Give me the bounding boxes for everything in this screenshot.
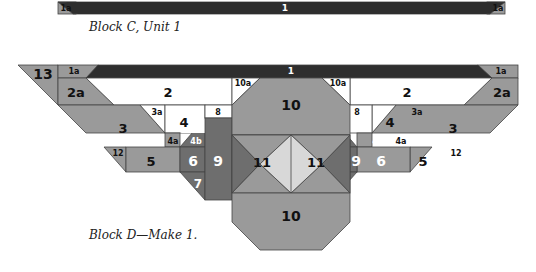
label-4-right: 4 [385, 115, 394, 130]
label-6-left: 6 [188, 153, 198, 169]
label-c-1a-left: 1a [61, 4, 72, 13]
label-12-left: 12 [112, 149, 123, 158]
label-12-right: 12 [450, 149, 461, 158]
label-2-left: 2 [163, 85, 172, 100]
label-10a-left: 10a [235, 79, 252, 88]
label-5-right: 5 [418, 154, 427, 169]
label-10a-right: 10a [330, 79, 347, 88]
label-2-right: 2 [402, 85, 411, 100]
quilt-diagram: 1a 1 1a 13 1a 1 1a 2a 2 10a 10 10a 2 2a … [0, 0, 536, 272]
label-3a-left: 3a [152, 108, 163, 117]
label-4a-left: 4a [168, 137, 179, 146]
label-1a-left: 1a [69, 67, 80, 76]
label-2a-right: 2a [493, 85, 511, 100]
label-1: 1 [288, 66, 294, 76]
label-3a-right: 3a [412, 108, 423, 117]
label-11-left: 11 [253, 155, 271, 170]
label-13: 13 [33, 66, 52, 82]
label-9-right: 9 [351, 153, 361, 169]
label-2a-left: 2a [67, 85, 85, 100]
label-c-1a-right: 1a [493, 4, 504, 13]
label-8-right: 8 [354, 108, 360, 117]
label-7-right: 7 [372, 177, 380, 191]
label-4b-right: 4b [372, 137, 384, 146]
piece-4a-right [357, 133, 372, 147]
label-10-top: 10 [281, 97, 301, 113]
label-4b-left: 4b [190, 137, 202, 146]
label-4a-right: 4a [396, 137, 407, 146]
label-3-left: 3 [118, 121, 127, 136]
label-9-left: 9 [213, 153, 223, 169]
label-c-1: 1 [282, 3, 288, 13]
label-7-left: 7 [194, 177, 202, 191]
label-4-left: 4 [179, 115, 188, 130]
caption-block-d: Block D—Make 1. [89, 228, 197, 242]
label-1a-right: 1a [496, 67, 507, 76]
label-3-right: 3 [448, 121, 457, 136]
caption-block-c: Block C, Unit 1 [89, 20, 181, 34]
label-6-right: 6 [376, 153, 386, 169]
label-5-left: 5 [146, 154, 155, 169]
label-8-left: 8 [215, 108, 221, 117]
label-11-right: 11 [307, 155, 325, 170]
label-10-bottom: 10 [281, 208, 301, 224]
